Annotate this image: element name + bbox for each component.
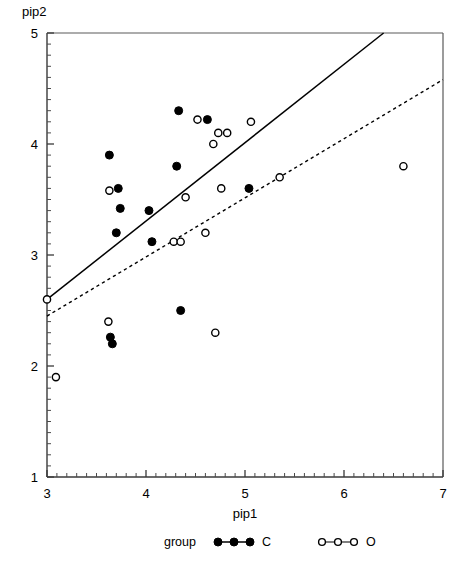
data-point-C [116,204,124,212]
fit-lines [47,33,443,316]
data-point-C [175,107,183,115]
y-tick-label: 4 [31,137,38,152]
legend-marker-C [246,538,254,546]
legend: group CO [164,535,376,549]
data-point-C [112,229,120,237]
data-point-O [212,329,219,336]
data-point-C [108,340,116,348]
data-point-C [203,116,211,124]
legend-marker-O [319,539,326,546]
data-point-O [105,318,112,325]
data-point-O [224,129,231,136]
axis-ticks [47,33,443,477]
data-points [43,107,407,381]
y-axis-title: pip2 [22,4,47,19]
x-tick-label: 4 [142,486,149,501]
data-point-O [52,374,59,381]
legend-label-C: C [262,535,271,549]
legend-marker-C [230,538,238,546]
legend-marker-O [351,539,358,546]
legend-entry-O: O [319,535,376,549]
y-tick-label: 2 [31,359,38,374]
data-point-C [114,184,122,192]
data-point-C [245,184,253,192]
series-C [105,107,253,348]
data-point-C [105,151,113,159]
legend-marker-C [214,538,222,546]
scatter-plot-figure: 3456712345 pip2 pip1 group CO [0,0,462,561]
y-tick-label: 5 [31,26,38,41]
data-point-O [182,194,189,201]
data-point-O [247,118,254,125]
data-point-C [145,207,153,215]
dashed-fit-line [47,80,443,316]
data-point-O [218,185,225,192]
x-tick-label: 7 [439,486,446,501]
legend-label-O: O [366,535,376,549]
data-point-O [276,174,283,181]
solid-fit-line [47,33,384,299]
data-point-O [177,238,184,245]
legend-entry-C: C [214,535,271,549]
data-point-O [194,116,201,123]
legend-entries: CO [214,535,376,549]
y-tick-label: 3 [31,248,38,263]
data-point-C [148,238,156,246]
data-point-O [43,296,50,303]
x-tick-label: 6 [340,486,347,501]
x-tick-label: 5 [241,486,248,501]
series-O [43,116,407,381]
data-point-O [400,163,407,170]
data-point-C [177,307,185,315]
plot-frame [47,33,443,477]
x-axis-title: pip1 [233,506,258,521]
legend-marker-O [335,539,342,546]
data-point-O [106,187,113,194]
data-point-O [210,140,217,147]
data-point-C [173,162,181,170]
x-tick-label: 3 [43,486,50,501]
data-point-O [202,229,209,236]
plot-canvas: 3456712345 pip2 pip1 group CO [0,0,462,561]
data-point-O [215,129,222,136]
y-tick-label: 1 [31,470,38,485]
legend-title: group [164,535,196,549]
data-point-O [170,238,177,245]
